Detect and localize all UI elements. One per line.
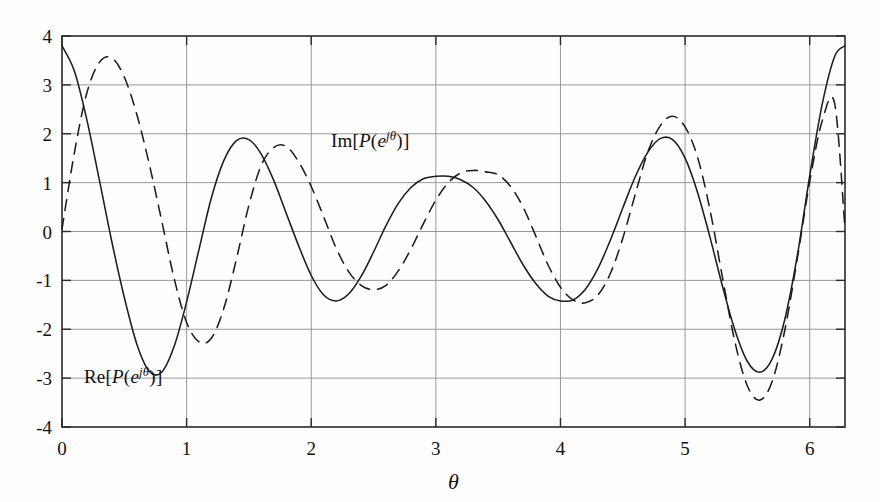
x-tick-label: 1: [182, 438, 192, 459]
y-tick-label: -3: [36, 368, 52, 389]
y-tick-label: 2: [43, 124, 53, 145]
y-tick-label: 0: [43, 222, 53, 243]
figure-canvas: 43210-1-2-3-4 0123456 θ Im[P(ejθ)] Re[P(…: [0, 0, 880, 502]
y-tick-label: -1: [36, 270, 52, 291]
series-annotation-imaginary: Im[P(ejθ)]: [331, 130, 409, 152]
y-tick-label: -4: [36, 417, 52, 438]
horizontal-gridlines: [62, 85, 845, 378]
chart-plot: 43210-1-2-3-4 0123456 θ: [0, 0, 880, 502]
y-tick-label: 1: [43, 173, 53, 194]
x-tick-label: 3: [431, 438, 441, 459]
y-axis-tick-labels: 43210-1-2-3-4: [36, 26, 52, 438]
y-tick-label: 4: [43, 26, 53, 47]
series-annotation-real: Re[P(ejθ)]: [84, 366, 162, 388]
series-line-imaginary: [62, 57, 845, 400]
x-tick-label: 4: [556, 438, 566, 459]
x-tick-label: 6: [805, 438, 815, 459]
series-line-real: [62, 46, 845, 375]
x-axis-title: θ: [448, 469, 459, 494]
x-tick-label: 0: [57, 438, 67, 459]
y-tick-label: -2: [36, 319, 52, 340]
x-axis-tick-labels: 0123456: [57, 438, 814, 459]
x-tick-label: 5: [680, 438, 690, 459]
x-tick-label: 2: [306, 438, 316, 459]
y-tick-label: 3: [43, 75, 53, 96]
